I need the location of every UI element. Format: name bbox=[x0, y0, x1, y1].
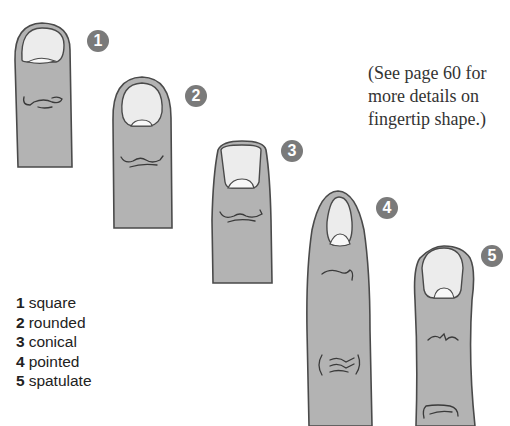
legend-item: 3conical bbox=[16, 332, 92, 352]
finger-conical bbox=[212, 141, 272, 283]
number-badge-3: 3 bbox=[281, 140, 303, 162]
legend-number: 1 bbox=[16, 294, 25, 311]
number-badge-4: 4 bbox=[376, 197, 398, 219]
legend-number: 3 bbox=[16, 333, 25, 350]
legend-label: rounded bbox=[29, 314, 86, 331]
finger-pointed bbox=[307, 191, 372, 426]
legend-label: spatulate bbox=[29, 372, 92, 389]
shape-legend: 1square 2rounded 3conical 4pointed 5spat… bbox=[16, 293, 92, 391]
number-badge-1: 1 bbox=[87, 30, 109, 52]
finger-spatulate bbox=[415, 246, 475, 426]
note-line: (See page 60 for bbox=[368, 62, 508, 85]
legend-label: conical bbox=[29, 333, 77, 350]
finger-rounded bbox=[113, 77, 172, 228]
legend-label: pointed bbox=[29, 353, 80, 370]
note-line: more details on bbox=[368, 85, 508, 108]
number-badge-5: 5 bbox=[481, 245, 503, 267]
legend-number: 2 bbox=[16, 314, 25, 331]
legend-label: square bbox=[29, 294, 76, 311]
legend-number: 5 bbox=[16, 372, 25, 389]
page-reference-note: (See page 60 for more details on fingert… bbox=[368, 62, 508, 131]
fingertip-shapes-diagram: 1 2 3 4 5 (See page 60 for more details … bbox=[0, 0, 510, 426]
legend-item: 5spatulate bbox=[16, 371, 92, 391]
legend-item: 2rounded bbox=[16, 313, 92, 333]
legend-item: 4pointed bbox=[16, 352, 92, 372]
legend-number: 4 bbox=[16, 353, 25, 370]
finger-square bbox=[15, 23, 72, 167]
legend-item: 1square bbox=[16, 293, 92, 313]
number-badge-2: 2 bbox=[185, 85, 207, 107]
note-line: fingertip shape.) bbox=[368, 108, 508, 131]
